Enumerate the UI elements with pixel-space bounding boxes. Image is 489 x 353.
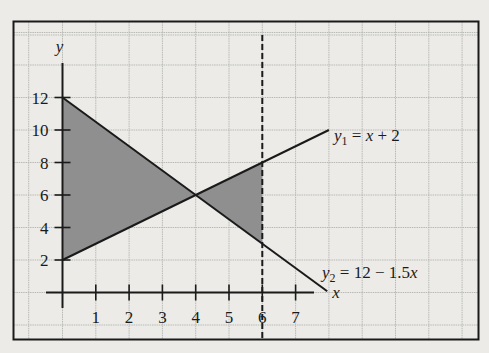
x-tick-label: 7 xyxy=(291,308,300,327)
series-label-2: y2 = 12 − 1.5x xyxy=(320,263,418,285)
x-tick-label: 1 xyxy=(92,308,101,327)
series-labels: y1 = x + 2y2 = 12 − 1.5x xyxy=(320,126,418,285)
chart-figure: 123456724681012yx y1 = x + 2y2 = 12 − 1.… xyxy=(0,0,489,353)
y-tick-label: 6 xyxy=(40,186,49,205)
x-tick-label: 3 xyxy=(158,308,167,327)
y-tick-label: 2 xyxy=(40,251,49,270)
chart-svg: 123456724681012yx y1 = x + 2y2 = 12 − 1.… xyxy=(0,0,489,353)
y-tick-label: 10 xyxy=(32,121,49,140)
x-tick-label: 4 xyxy=(191,308,200,327)
x-tick-label: 5 xyxy=(225,308,234,327)
y-tick-label: 12 xyxy=(32,89,49,108)
x-axis-label: x xyxy=(331,283,340,302)
y-axis-label: y xyxy=(54,37,64,56)
x-tick-label: 2 xyxy=(125,308,134,327)
y-tick-label: 8 xyxy=(40,154,49,173)
series-label-1: y1 = x + 2 xyxy=(332,126,400,148)
y-tick-label: 4 xyxy=(40,219,49,238)
